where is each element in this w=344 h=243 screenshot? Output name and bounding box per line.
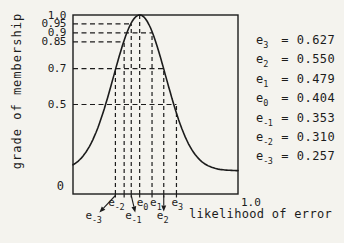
value-row-e0: e0= 0.404 xyxy=(256,91,335,110)
value-row-e3: e3= 0.627 xyxy=(256,33,335,52)
point-value-list: e3= 0.627e2= 0.550e1= 0.479e0= 0.404e-1=… xyxy=(256,33,335,169)
x-max-tick-label: 1.0 xyxy=(241,196,261,209)
value-row-e-2: e-2= 0.310 xyxy=(256,130,335,149)
origin-tick-label: 0 xyxy=(50,179,64,193)
point-label-e1: e1 xyxy=(150,197,161,209)
point-label-e0: e0 xyxy=(137,197,148,209)
y-tick-label-0.5: 0.5 xyxy=(48,99,66,110)
y-tick-label-0.7: 0.7 xyxy=(48,63,66,74)
point-label-e3: e3 xyxy=(171,197,182,209)
value-row-e-1: e-1= 0.353 xyxy=(256,111,335,130)
point-label-e-3: e-3 xyxy=(85,210,101,222)
y-tick-label-0.85: 0.85 xyxy=(42,36,67,47)
point-label-e-1: e-1 xyxy=(125,210,141,222)
value-row-e2: e2= 0.550 xyxy=(256,52,335,71)
point-label-e-2: e-2 xyxy=(108,197,124,209)
membership-curve xyxy=(73,15,238,171)
value-row-e-3: e-3= 0.257 xyxy=(256,149,335,168)
y-axis-label: grade of membership xyxy=(10,13,24,169)
x-axis-label: likelihood of error xyxy=(189,207,332,221)
scanned-figure: grade of membership likelihood of error … xyxy=(0,0,344,243)
value-row-e1: e1= 0.479 xyxy=(256,72,335,91)
